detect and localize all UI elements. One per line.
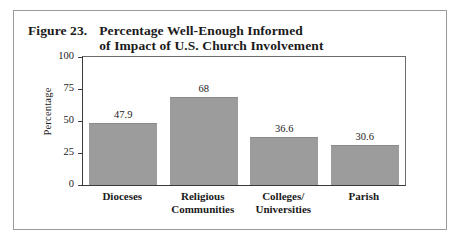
y-tick: 100 [43,57,83,58]
figure-frame: Figure 23. Percentage Well-Enough Inform… [13,10,447,230]
y-tick-mark [78,153,83,154]
y-tick-label: 75 [64,82,75,93]
bar-value-label: 68 [170,83,238,94]
y-tick-mark [78,121,83,122]
bar: 36.6 [250,137,318,185]
y-tick-label: 100 [58,50,74,61]
y-tick: 75 [43,89,83,90]
bar-value-label: 36.6 [250,123,318,134]
bar: 30.6 [331,145,399,185]
y-tick: 0 [43,185,83,186]
x-axis-label: Dioceses [82,190,163,203]
bar: 68 [170,97,238,185]
y-tick: 50 [43,121,83,122]
y-tick-mark [78,185,83,186]
x-axis-label: Parish [324,190,405,203]
plot-area: 0255075100 47.96836.630.6 [82,56,406,186]
y-tick: 25 [43,153,83,154]
y-tick-label: 0 [69,178,74,189]
bar-chart: Percentage 0255075100 47.96836.630.6 Dio… [14,11,448,231]
y-tick-mark [78,57,83,58]
y-tick-label: 50 [64,114,75,125]
y-axis-title: Percentage [42,57,53,167]
x-axis-label: Colleges/ Universities [243,190,324,215]
y-tick-label: 25 [64,146,75,157]
bar-value-label: 30.6 [331,131,399,142]
x-axis-label: Religious Communities [163,190,244,215]
y-tick-mark [78,89,83,90]
bar-value-label: 47.9 [89,109,157,120]
bar: 47.9 [89,123,157,185]
